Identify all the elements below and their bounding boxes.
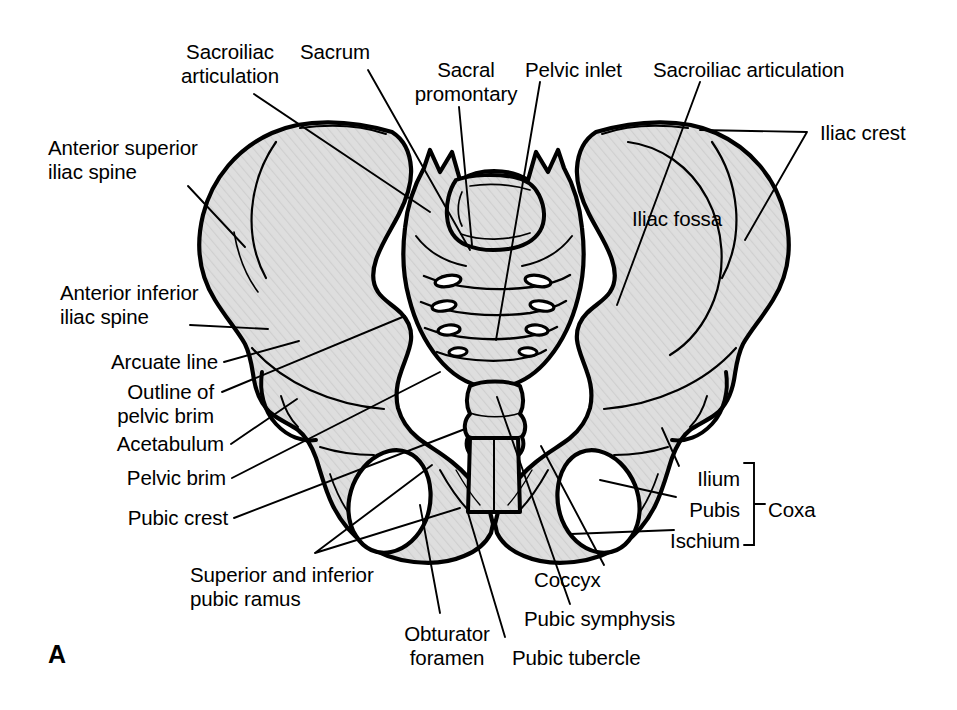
- coxa-bracket: [744, 463, 765, 545]
- label-superior-and-inferior-pubic-ramus: Superior and inferior pubic ramus: [190, 563, 374, 611]
- panel-letter: A: [48, 640, 66, 669]
- sacral-foramen-left-4: [449, 347, 468, 357]
- label-acetabulum: Acetabulum: [0, 432, 224, 456]
- label-pubis: Pubis: [600, 498, 740, 522]
- sacral-foramen-left-3: [438, 324, 461, 336]
- sacral-foramen-right-4: [519, 347, 538, 357]
- label-arcuate-line: Arcuate line: [0, 350, 218, 374]
- label-pelvic-brim: Pelvic brim: [0, 466, 226, 490]
- label-anterior-inferior-iliac-spine: Anterior inferior iliac spine: [60, 281, 198, 329]
- label-pelvic-inlet: Pelvic inlet: [525, 58, 622, 82]
- label-outline-of-pelvic-brim: Outline of pelvic brim: [0, 380, 214, 428]
- label-ilium: Ilium: [600, 467, 740, 491]
- label-coxa: Coxa: [768, 498, 815, 522]
- label-pubic-crest: Pubic crest: [0, 506, 228, 530]
- label-sacroiliac-articulation-right: Sacroiliac articulation: [653, 58, 844, 82]
- label-sacroiliac-articulation-left: Sacroiliac articulation: [155, 40, 305, 88]
- label-coccyx: Coccyx: [534, 568, 601, 592]
- pelvis-figure: Sacroiliac articulation Sacrum Sacral pr…: [0, 0, 957, 710]
- label-sacrum: Sacrum: [300, 40, 370, 64]
- sacral-foramen-right-3: [526, 324, 549, 336]
- label-iliac-crest: Iliac crest: [820, 121, 905, 145]
- label-pubic-tubercle: Pubic tubercle: [512, 646, 641, 670]
- label-obturator-foramen: Obturator foramen: [392, 622, 502, 670]
- label-iliac-fossa: Iliac fossa: [632, 207, 722, 231]
- label-pubic-symphysis: Pubic symphysis: [524, 607, 675, 631]
- label-anterior-superior-iliac-spine: Anterior superior iliac spine: [48, 136, 198, 184]
- label-ischium: Ischium: [600, 529, 740, 553]
- label-sacral-promontary: Sacral promontary: [406, 58, 526, 106]
